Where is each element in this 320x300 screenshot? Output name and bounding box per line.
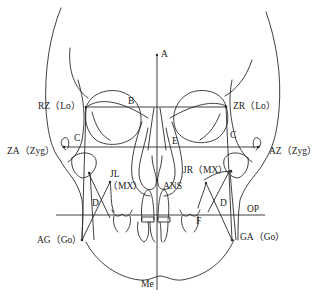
orbit-lateral-rim-right (230, 80, 252, 162)
face-outline-right (238, 162, 264, 240)
label-jl-mx: （MX） (108, 182, 143, 192)
label-op: OP (247, 205, 259, 215)
incisor-edge-left (142, 217, 154, 222)
skull-outline-left (46, 8, 61, 160)
label-c-left: C (74, 134, 80, 144)
incisor-lower-left (137, 222, 148, 242)
mandible-outline (86, 240, 234, 280)
label-za-zyg: ZA（Zyg） (7, 147, 55, 157)
orbit-lateral-left (70, 48, 88, 98)
molar-left (112, 210, 132, 232)
label-jl: JL (110, 170, 120, 180)
orbit-right (174, 91, 228, 143)
point-a (156, 54, 158, 56)
point-jr (230, 170, 232, 172)
label-ga-go: GA（Go） (240, 233, 285, 243)
incisor-lower-right (160, 222, 168, 242)
label-f: F (196, 217, 201, 227)
label-rz-lo: RZ（Lo） (38, 102, 81, 112)
face-outline-left (60, 160, 83, 240)
label-a: A (161, 50, 168, 60)
label-me: Me (141, 280, 154, 290)
label-jr-mx: JR（MX） (183, 166, 228, 176)
label-e: E (172, 137, 178, 147)
label-d-right: D (220, 199, 227, 209)
label-ag-go: AG（Go） (37, 236, 82, 246)
nasal-septum-left (148, 108, 154, 150)
label-b: B (128, 97, 134, 107)
label-zr-lo: ZR（Lo） (233, 102, 276, 112)
point-jl (88, 172, 90, 174)
point-za (63, 146, 65, 148)
orbit-roof-right (170, 103, 226, 118)
nasal-septum-right (160, 108, 166, 150)
point-zr (225, 106, 228, 109)
point-ga (231, 239, 234, 242)
incisor-upper-right (158, 190, 169, 220)
label-d-left: D (92, 199, 99, 209)
orbit-right-inner (200, 114, 220, 140)
label-az-zyg: AZ（Zyg） (269, 147, 317, 157)
orbit-lateral-right (225, 60, 252, 96)
skull-outline-right (264, 12, 280, 162)
point-ans (156, 179, 158, 181)
label-ans: ANS (163, 182, 182, 192)
point-rz (85, 106, 88, 109)
zygomatic-loop-left (61, 138, 69, 150)
point-jr-mx (205, 182, 207, 184)
diagonal-jl-ag (82, 182, 110, 240)
cephalometric-diagram: A B RZ（Lo） ZR（Lo） C C E ZA（Zyg） AZ（Zyg） … (0, 0, 320, 300)
label-c-right: C (230, 131, 236, 141)
zygomatic-loop-right (253, 138, 261, 150)
orbit-roof-left (88, 102, 148, 118)
incisor-lower-mid (150, 222, 155, 242)
point-az (257, 146, 259, 148)
buttress-right (198, 183, 206, 208)
orbit-left-inner (92, 112, 110, 140)
